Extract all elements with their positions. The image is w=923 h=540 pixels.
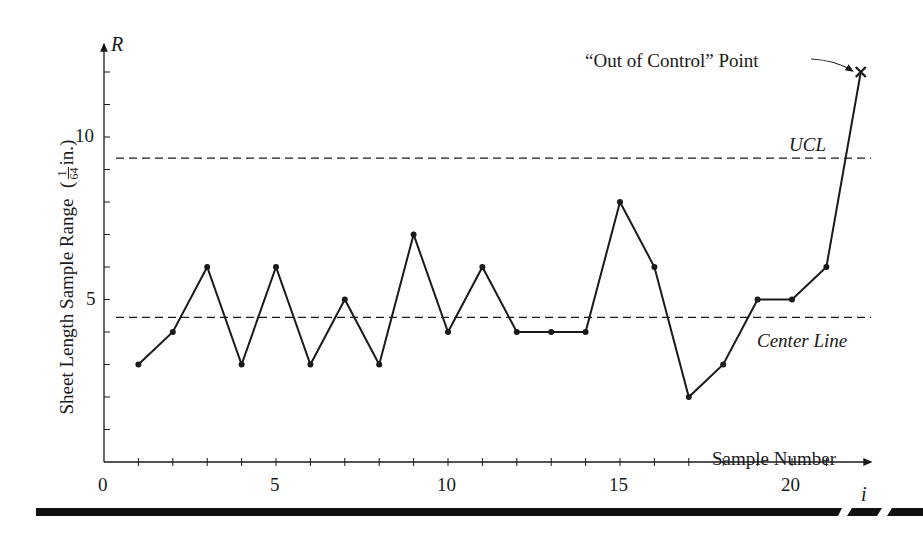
data-point: [514, 329, 520, 335]
reference-lines: [116, 158, 871, 317]
annotation-arrow: [811, 59, 853, 71]
x-tick-label-0: 0: [98, 474, 108, 496]
axes: [104, 44, 871, 466]
x-axis-title: Sample Number: [712, 448, 836, 470]
data-point: [239, 362, 245, 368]
x-tick-label-10: 10: [437, 474, 456, 496]
data-point: [411, 232, 417, 238]
y-tick-label-10: 10: [75, 125, 94, 147]
data-point: [789, 297, 795, 303]
data-point: [617, 199, 623, 205]
data-point: [376, 362, 382, 368]
x-tick-label-15: 15: [609, 474, 628, 496]
data-point: [583, 329, 589, 335]
data-point: [755, 297, 761, 303]
y-axis-unit-fraction: 164: [57, 168, 80, 180]
data-point: [479, 264, 485, 270]
bottom-rule: [36, 508, 923, 516]
y-axis-unit-open: (: [56, 182, 77, 188]
data-point: [204, 264, 210, 270]
y-axis-title: Sheet Length Sample Range (164in.): [56, 117, 80, 437]
center-line-label: Center Line: [757, 330, 847, 352]
series-line: [138, 72, 860, 397]
ucl-label: UCL: [789, 134, 826, 156]
annotations: [811, 59, 853, 71]
x-tick-label-20: 20: [781, 474, 800, 496]
data-point: [342, 297, 348, 303]
y-axis-unit-suffix: in.): [56, 140, 77, 166]
data-point: [686, 394, 692, 400]
data-point: [445, 329, 451, 335]
data-point: [170, 329, 176, 335]
y-axis-symbol: R: [111, 33, 123, 56]
data-point: [307, 362, 313, 368]
data-point: [651, 264, 657, 270]
out-of-control-label: “Out of Control” Point: [585, 50, 759, 72]
data-point: [548, 329, 554, 335]
x-axis-symbol: i: [861, 483, 867, 506]
y-axis-title-text: Sheet Length Sample Range: [56, 199, 77, 415]
data-point: [823, 264, 829, 270]
data-point: [720, 362, 726, 368]
y-tick-label-5: 5: [86, 288, 96, 310]
x-tick-label-5: 5: [270, 474, 280, 496]
data-point: [135, 362, 141, 368]
data-point: [273, 264, 279, 270]
